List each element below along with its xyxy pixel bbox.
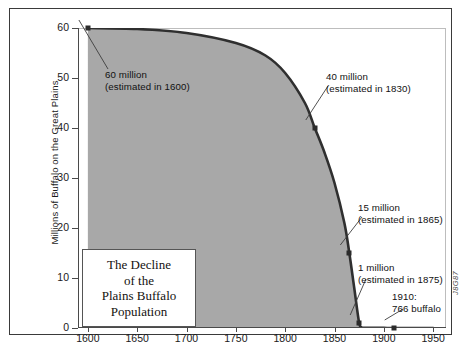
y-tick-0: 0	[72, 328, 78, 329]
figure-canvas: Millions of Buffalo on the Great Plains …	[0, 0, 463, 361]
x-tick-label-1800: 1800	[273, 332, 296, 344]
data-marker-1830	[312, 126, 317, 131]
x-tick-label-1600: 1600	[76, 332, 99, 344]
data-marker-1865	[347, 251, 352, 256]
title-line-2: of the	[124, 273, 154, 289]
chart-outer-frame: Millions of Buffalo on the Great Plains …	[9, 8, 452, 335]
annotation-1910-line-1: 1910:	[392, 291, 441, 303]
x-tick-label-1700: 1700	[175, 332, 198, 344]
chart-title-card: The Decline of the Plains Buffalo Popula…	[82, 249, 196, 327]
y-axis-line	[78, 28, 79, 328]
annotation-1865-line-1: 15 million	[358, 202, 443, 214]
annotation-1910-line-2: 766 buffalo	[392, 303, 441, 315]
y-tick-40: 40	[72, 128, 78, 129]
y-tick-label-10: 10	[57, 271, 69, 283]
data-marker-1600	[85, 26, 90, 31]
y-axis-title: Millions of Buffalo on the Great Plains	[49, 23, 60, 303]
annotation-1865: 15 million(estimated in 1865)	[358, 202, 443, 225]
title-line-3: Plains Buffalo	[102, 288, 177, 304]
annotation-1830-line-1: 40 million	[326, 71, 411, 83]
annotation-1875-line-1: 1 million	[358, 262, 443, 274]
x-tick-label-1900: 1900	[372, 332, 395, 344]
y-tick-label-30: 30	[57, 171, 69, 183]
annotation-1910: 1910:766 buffalo	[392, 291, 441, 314]
annotation-1875: 1 million(estimated in 1875)	[358, 262, 443, 285]
x-tick-label-1650: 1650	[126, 332, 149, 344]
x-tick-label-1750: 1750	[224, 332, 247, 344]
y-tick-30: 30	[72, 178, 78, 179]
x-tick-label-1950: 1950	[421, 332, 444, 344]
y-tick-10: 10	[72, 278, 78, 279]
annotation-1830: 40 million(estimated in 1830)	[326, 71, 411, 94]
annotation-1600-line-2: (estimated in 1600)	[105, 81, 190, 93]
y-tick-label-20: 20	[57, 221, 69, 233]
y-tick-label-50: 50	[57, 71, 69, 83]
source-credit-label: J8G87	[451, 271, 460, 295]
data-marker-1910	[391, 325, 396, 330]
y-tick-label-60: 60	[57, 21, 69, 33]
data-marker-1875	[357, 321, 362, 326]
y-tick-20: 20	[72, 228, 78, 229]
title-line-1: The Decline	[107, 257, 171, 273]
annotation-1875-line-2: (estimated in 1875)	[358, 274, 443, 286]
x-tick-label-1850: 1850	[323, 332, 346, 344]
y-tick-label-40: 40	[57, 121, 69, 133]
annotation-1600-line-1: 60 million	[105, 69, 190, 81]
annotation-1865-line-2: (estimated in 1865)	[358, 214, 443, 226]
annotation-1830-line-2: (estimated in 1830)	[326, 83, 411, 95]
y-tick-label-0: 0	[63, 321, 69, 333]
y-tick-60: 60	[72, 28, 78, 29]
y-tick-50: 50	[72, 78, 78, 79]
title-line-4: Population	[111, 304, 167, 320]
annotation-1600: 60 million(estimated in 1600)	[105, 69, 190, 92]
